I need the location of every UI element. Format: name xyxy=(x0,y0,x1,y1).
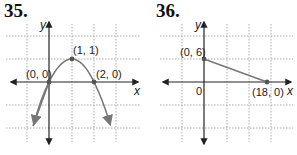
label-2-0: (2, 0) xyxy=(96,68,122,80)
graphs-canvas: (0, 0) (1, 1) (2, 0) x y (0, 6) (18, 0) … xyxy=(0,0,297,155)
origin-label: 0 xyxy=(196,85,202,97)
label-0-6: (0, 6) xyxy=(180,46,206,58)
segment-line xyxy=(204,59,267,82)
point-0-0 xyxy=(47,80,52,85)
x-axis-label-36: x xyxy=(286,84,294,98)
graph-35: (0, 0) (1, 1) (2, 0) x y xyxy=(6,18,141,144)
point-1-1 xyxy=(70,57,75,62)
y-axis-label-35: y xyxy=(39,18,47,32)
point-2-0 xyxy=(92,80,97,85)
grid-35 xyxy=(6,24,140,142)
label-1-1: (1, 1) xyxy=(73,44,99,56)
y-axis-label-36: y xyxy=(194,18,202,32)
label-18-0: (18, 0) xyxy=(252,86,284,98)
grid-36 xyxy=(160,24,293,142)
point-18-0 xyxy=(265,80,270,85)
x-axis-label-35: x xyxy=(133,84,141,98)
graph-36: (0, 6) (18, 0) 0 x y xyxy=(160,18,294,144)
label-0-0: (0, 0) xyxy=(26,68,52,80)
